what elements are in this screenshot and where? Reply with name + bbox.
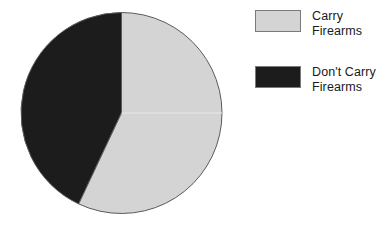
legend-swatch-carry-firearms — [255, 10, 301, 32]
pie-chart-plot-area — [20, 11, 223, 215]
pie-chart-figure: Carry Firearms Don't Carry Firearms — [0, 0, 392, 226]
legend-item-dont-carry-firearms[interactable]: Don't Carry Firearms — [255, 65, 390, 94]
pie-chart-svg — [20, 11, 223, 215]
legend-label-dont-carry-firearms: Don't Carry Firearms — [312, 65, 376, 94]
legend-swatch-dont-carry-firearms — [255, 66, 301, 88]
chart-legend: Carry Firearms Don't Carry Firearms — [255, 9, 390, 121]
legend-item-carry-firearms[interactable]: Carry Firearms — [255, 9, 390, 38]
legend-label-carry-firearms: Carry Firearms — [312, 9, 362, 38]
